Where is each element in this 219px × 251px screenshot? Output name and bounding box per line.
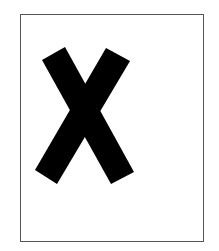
x-mark-icon [0, 0, 219, 251]
